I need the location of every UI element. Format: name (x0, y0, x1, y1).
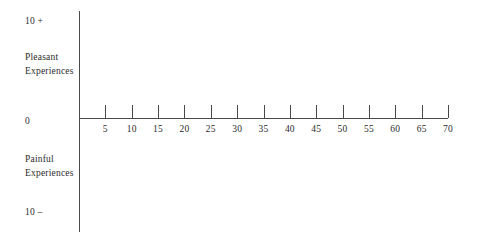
x-axis-tick (448, 105, 449, 118)
y-axis-pleasant-annotation: Pleasant Experiences (25, 51, 74, 78)
x-axis-tick (105, 105, 106, 118)
y-axis-origin-label: 0 (25, 115, 30, 129)
y-axis-top-label: 10 + (25, 15, 43, 29)
x-axis-tick (395, 105, 396, 118)
y-axis-bottom-label: 10 – (25, 206, 42, 220)
pleasant-line-2: Experiences (25, 65, 74, 79)
x-axis-tick (237, 105, 238, 118)
x-axis-tick (132, 105, 133, 118)
vertical-axis-line (79, 11, 80, 232)
y-axis-painful-annotation: Painful Experiences (25, 153, 74, 180)
x-axis-tick (264, 105, 265, 118)
painful-line-2: Experiences (25, 167, 74, 181)
pleasant-line-1: Pleasant (25, 51, 74, 65)
painful-line-1: Painful (25, 153, 74, 167)
chart-figure: 510152025303540455055606570 10 + Pleasan… (0, 0, 478, 248)
x-axis-tick (369, 105, 370, 118)
x-axis-tick (158, 105, 159, 118)
horizontal-axis-line (79, 118, 448, 119)
x-axis-tick (211, 105, 212, 118)
x-axis-tick (422, 105, 423, 118)
x-axis-tick (316, 105, 317, 118)
x-axis-tick (290, 105, 291, 118)
x-axis-tick (343, 105, 344, 118)
x-axis-tick (184, 105, 185, 118)
x-axis-tick-label: 70 (433, 123, 463, 135)
